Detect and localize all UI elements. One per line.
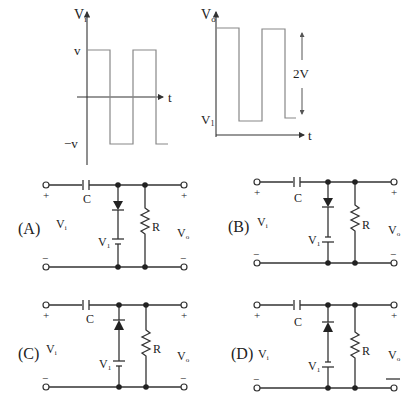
diode-up-icon bbox=[323, 322, 333, 332]
plus-sign: + bbox=[391, 309, 397, 321]
resistor-label-c: R bbox=[153, 342, 161, 356]
plus-sign: + bbox=[43, 309, 49, 321]
vo-square-wave bbox=[216, 28, 296, 121]
resistor-label-a: R bbox=[152, 220, 160, 234]
option-label-b: (B) bbox=[228, 218, 249, 236]
junction bbox=[142, 264, 148, 270]
input-terminal-minus bbox=[43, 264, 49, 270]
diode-down-icon bbox=[323, 198, 333, 207]
junction bbox=[143, 384, 149, 390]
junction bbox=[115, 264, 121, 270]
minus-sign: − bbox=[253, 373, 259, 385]
junction bbox=[142, 182, 148, 188]
junction bbox=[352, 260, 358, 266]
resistor-icon bbox=[141, 185, 149, 267]
junction bbox=[352, 385, 358, 391]
circuit-option-c[interactable]: (C) Vi Vo C V1 R + + − − bbox=[18, 300, 190, 390]
vi-label-b: Vi bbox=[257, 215, 268, 230]
diode-down-icon bbox=[113, 201, 123, 210]
output-terminal-minus bbox=[391, 385, 397, 391]
output-terminal-plus bbox=[181, 182, 187, 188]
minus-sign: − bbox=[42, 252, 48, 264]
output-terminal-minus bbox=[181, 264, 187, 270]
junction bbox=[352, 179, 358, 185]
output-waveform-graph: 2V Vo t V1 bbox=[201, 7, 312, 143]
vo-label-a: Vo bbox=[177, 226, 190, 241]
option-label-a: (A) bbox=[18, 220, 40, 238]
junction bbox=[115, 182, 121, 188]
battery-label-b: V1 bbox=[308, 233, 321, 248]
minus-sign: − bbox=[390, 248, 396, 260]
resistor-icon bbox=[142, 305, 150, 387]
input-terminal-minus bbox=[43, 384, 49, 390]
battery-label-c: V1 bbox=[99, 357, 112, 372]
minus-sign: − bbox=[253, 248, 259, 260]
vo-label-c: Vo bbox=[177, 349, 190, 364]
vi-upper-level-label: v bbox=[74, 43, 81, 58]
junction bbox=[325, 179, 331, 185]
junction bbox=[116, 384, 122, 390]
circuit-option-a[interactable]: (A) Vi Vo C V1 R + + − − bbox=[18, 180, 190, 270]
battery-label-d: V1 bbox=[308, 359, 321, 374]
output-terminal-minus bbox=[181, 384, 187, 390]
input-terminal-minus bbox=[254, 260, 260, 266]
circuit-option-d[interactable]: (D) Vi Vo C V1 R + + − bbox=[231, 300, 401, 391]
vi-t-label: t bbox=[168, 90, 172, 105]
plus-sign: + bbox=[254, 186, 260, 198]
option-label-d: (D) bbox=[231, 345, 253, 363]
input-terminal-plus bbox=[43, 302, 49, 308]
junction bbox=[325, 260, 331, 266]
circuit-option-b[interactable]: (B) Vi Vo C V1 R + + − − bbox=[228, 177, 401, 266]
vi-label-d: Vi bbox=[258, 347, 269, 362]
diagram-canvas: Vi t v −v 2V Vo t V1 (A) Vi Vo C bbox=[0, 0, 415, 415]
minus-sign: − bbox=[42, 372, 48, 384]
junction bbox=[325, 302, 331, 308]
capacitor-label-d: C bbox=[294, 315, 302, 329]
option-label-c: (C) bbox=[18, 345, 39, 363]
plus-sign: + bbox=[181, 189, 187, 201]
v1-level-label: V1 bbox=[201, 112, 214, 128]
resistor-label-b: R bbox=[362, 218, 370, 232]
diode-up-icon bbox=[114, 320, 124, 330]
input-terminal-plus bbox=[254, 302, 260, 308]
amplitude-label: 2V bbox=[293, 66, 310, 81]
output-terminal-plus bbox=[181, 302, 187, 308]
output-terminal-plus bbox=[391, 179, 397, 185]
junction bbox=[116, 302, 122, 308]
vi-axis-label: Vi bbox=[74, 7, 87, 24]
output-terminal-plus bbox=[391, 302, 397, 308]
resistor-label-d: R bbox=[362, 344, 370, 358]
capacitor-label-c: C bbox=[86, 312, 94, 326]
vi-lower-level-label: −v bbox=[64, 136, 78, 151]
input-waveform-graph: Vi t v −v bbox=[64, 7, 172, 165]
minus-sign: − bbox=[180, 372, 186, 384]
battery-label-a: V1 bbox=[98, 235, 111, 250]
vi-label-c: Vi bbox=[46, 342, 57, 357]
junction bbox=[325, 385, 331, 391]
plus-sign: + bbox=[391, 186, 397, 198]
vi-label-a: Vi bbox=[56, 217, 67, 232]
vo-label-d: Vo bbox=[388, 348, 401, 363]
plus-sign: + bbox=[254, 309, 260, 321]
capacitor-label-a: C bbox=[83, 192, 91, 206]
input-terminal-minus bbox=[254, 385, 260, 391]
vo-label-b: Vo bbox=[388, 223, 401, 238]
capacitor-label-b: C bbox=[294, 191, 302, 205]
input-terminal-plus bbox=[43, 182, 49, 188]
junction bbox=[143, 302, 149, 308]
resistor-icon bbox=[351, 182, 359, 263]
vo-t-label: t bbox=[308, 128, 312, 143]
input-terminal-plus bbox=[254, 179, 260, 185]
plus-sign: + bbox=[43, 189, 49, 201]
plus-sign: + bbox=[181, 309, 187, 321]
resistor-icon bbox=[351, 305, 359, 388]
vo-axis-label: Vo bbox=[201, 7, 216, 24]
output-terminal-minus bbox=[391, 260, 397, 266]
junction bbox=[352, 302, 358, 308]
minus-sign: − bbox=[180, 252, 186, 264]
